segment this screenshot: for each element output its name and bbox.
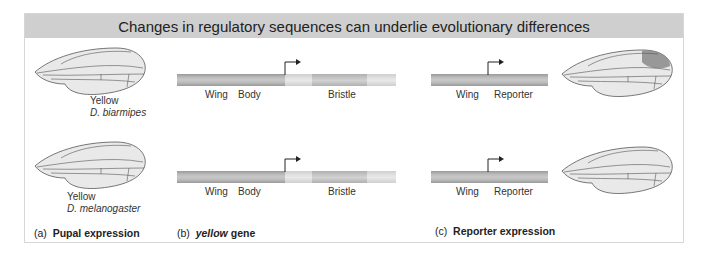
reporter-segment-wing: Wing xyxy=(456,186,479,197)
species-label-row1: D. biarmipes xyxy=(90,107,146,118)
gene-segment-wing: Wing xyxy=(205,89,228,100)
gene-label-row1: Yellow xyxy=(90,95,119,106)
gene-segment-bristle: Bristle xyxy=(328,89,356,100)
panel-b-caption: (b) yellow gene xyxy=(177,227,255,239)
promoter-arrow-icon xyxy=(279,155,303,173)
wing-biarmipes-pupal xyxy=(31,42,151,98)
gene-segment-bristle: Bristle xyxy=(328,186,356,197)
species-label-row2: D. melanogaster xyxy=(67,203,140,214)
gene-segment-body: Body xyxy=(238,89,261,100)
promoter-arrow-icon xyxy=(279,58,303,76)
figure-frame: Changes in regulatory sequences can unde… xyxy=(24,13,684,243)
wing-melanogaster-reporter xyxy=(558,141,678,197)
promoter-arrow-icon xyxy=(482,155,506,173)
wing-melanogaster-pupal xyxy=(31,136,151,192)
gene-segment-body: Body xyxy=(238,186,261,197)
panel-a-caption: (a) Pupal expression xyxy=(34,227,140,239)
wing-biarmipes-reporter-with-spot xyxy=(558,44,678,100)
figure-title: Changes in regulatory sequences can unde… xyxy=(25,14,683,38)
reporter-segment-wing: Wing xyxy=(456,89,479,100)
reporter-segment-reporter: Reporter xyxy=(494,186,533,197)
gene-segment-wing: Wing xyxy=(205,186,228,197)
panel-c-caption: (c) Reporter expression xyxy=(435,225,555,237)
promoter-arrow-icon xyxy=(482,58,506,76)
gene-label-row2: Yellow xyxy=(67,191,96,202)
reporter-segment-reporter: Reporter xyxy=(494,89,533,100)
